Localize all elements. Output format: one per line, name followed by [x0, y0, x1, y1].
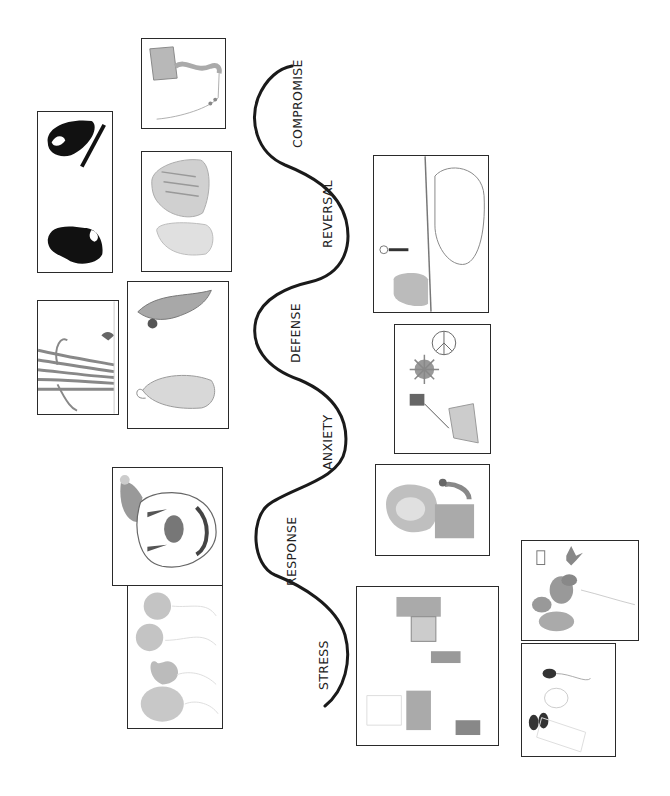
dragon-rabbit-icon [128, 282, 228, 428]
stage-label-anxiety: ANXIETY [320, 415, 335, 470]
tiger-figure-icon [142, 152, 231, 271]
room-scene-icon [357, 587, 498, 745]
instruments-icon [522, 541, 638, 640]
peace-sign-icon [395, 325, 490, 453]
drawing-girl [375, 464, 490, 556]
drawing-tiger-figure [141, 151, 232, 272]
drawing-tree [37, 300, 119, 415]
sketch-icon [522, 644, 615, 756]
drawing-kite [141, 38, 226, 129]
black-silhouettes-icon [38, 112, 112, 272]
girl-portrait-icon [376, 465, 489, 555]
drawing-balloons [127, 585, 223, 729]
drawing-peace [394, 324, 491, 454]
tree-icon [38, 301, 118, 414]
stage-label-compromise: COMPROMISE [290, 59, 305, 148]
drawing-elephant [373, 155, 489, 313]
stage-label-defense: DEFENSE [288, 303, 303, 363]
balloons-icon [128, 586, 222, 728]
drawing-sketch [521, 643, 616, 757]
drawing-dragon-rabbit [127, 281, 229, 429]
elephant-scene-icon [374, 156, 488, 312]
stage-label-reversal: REVERSAL [320, 180, 335, 248]
drawing-instruments [521, 540, 639, 641]
drawing-clown [112, 467, 223, 586]
drawing-black-shapes [37, 111, 113, 273]
stage-label-stress: STRESS [316, 640, 331, 690]
clown-face-icon [113, 468, 222, 585]
stage-label-response: RESPONSE [284, 517, 299, 586]
kite-icon [142, 39, 225, 128]
drawing-room [356, 586, 499, 746]
